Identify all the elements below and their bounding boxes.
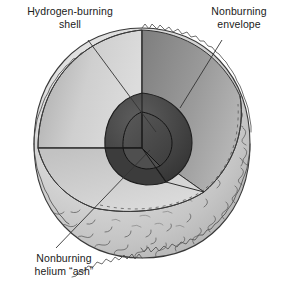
star-cutaway-illustration — [0, 0, 284, 290]
label-nonburning-envelope: Nonburning envelope — [196, 5, 282, 30]
label-nonburning-helium-ash: Nonburning helium “ash” — [4, 252, 124, 277]
label-hydrogen-burning-shell: Hydrogen-burning shell — [6, 5, 134, 30]
figure-canvas: Hydrogen-burning shell Nonburning envelo… — [0, 0, 284, 290]
